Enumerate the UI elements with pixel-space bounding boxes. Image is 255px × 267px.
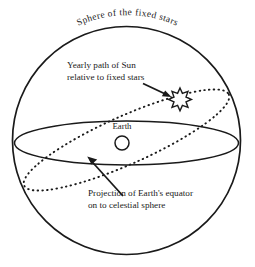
equator-projection-label-line2: on to celestial sphere	[88, 200, 165, 210]
diagram-title-textpath: Sphere of the fixed stars	[75, 7, 180, 28]
diagram-canvas: Sphere of the fixed stars Earth Yearly p…	[0, 0, 255, 267]
earth-marker	[115, 136, 129, 150]
sun-path-label-line2: relative to fixed stars	[67, 72, 145, 82]
equator-projection-label-line1: Projection of Earth's equator	[88, 188, 193, 198]
celestial-sphere-diagram: Sphere of the fixed stars Earth Yearly p…	[0, 0, 255, 267]
diagram-title: Sphere of the fixed stars	[75, 7, 180, 28]
sun-star-icon	[169, 88, 192, 111]
sun-path-label-line1: Yearly path of Sun	[67, 60, 136, 70]
earth-label: Earth	[112, 121, 132, 131]
